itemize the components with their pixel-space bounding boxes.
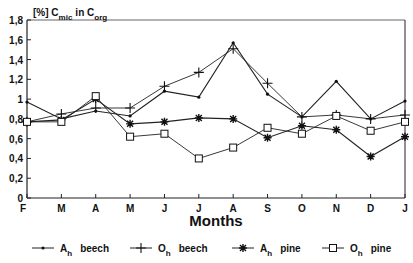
x-tick-label: F bbox=[20, 203, 26, 214]
star-marker-icon bbox=[229, 115, 237, 123]
x-tick-label: A bbox=[92, 203, 99, 214]
x-axis-title: Months bbox=[189, 212, 242, 229]
square-marker-icon bbox=[367, 127, 374, 134]
legend: AhbeechOhbeechAhpineOhpine bbox=[32, 243, 392, 258]
square-marker-icon bbox=[330, 245, 337, 252]
y-tick-label: 0,4 bbox=[9, 153, 23, 164]
y-tick-label: 0,8 bbox=[9, 114, 23, 125]
square-marker-icon bbox=[230, 144, 237, 151]
dot-marker-icon bbox=[335, 80, 338, 83]
x-tick-label: D bbox=[367, 203, 374, 214]
star-marker-icon bbox=[239, 244, 247, 252]
dot-marker-icon bbox=[197, 96, 200, 99]
dot-marker-icon bbox=[41, 246, 44, 249]
legend-item: Ahbeech bbox=[32, 243, 109, 258]
square-marker-icon bbox=[24, 118, 31, 125]
series-ah-beech bbox=[25, 41, 406, 120]
square-marker-icon bbox=[58, 118, 65, 125]
y-tick-label: 1 bbox=[17, 94, 23, 105]
x-tick-label: J bbox=[402, 203, 408, 214]
x-tick-label: M bbox=[126, 203, 134, 214]
star-marker-icon bbox=[160, 118, 168, 126]
plus-marker-icon bbox=[125, 103, 135, 113]
square-marker-icon bbox=[333, 112, 340, 119]
y-tick-label: 0,6 bbox=[9, 134, 23, 145]
legend-label: Ohbeech bbox=[158, 243, 208, 258]
x-tick-label: J bbox=[162, 203, 168, 214]
plus-marker-icon bbox=[159, 81, 169, 91]
series-ah-pine bbox=[23, 95, 409, 160]
square-marker-icon bbox=[92, 93, 99, 100]
star-marker-icon bbox=[264, 134, 272, 142]
y-tick-label: 1,6 bbox=[9, 35, 23, 46]
star-marker-icon bbox=[332, 126, 340, 134]
y-tick-label: 1,4 bbox=[9, 55, 23, 66]
series-oh-pine bbox=[24, 93, 409, 162]
y-tick-label: 1,8 bbox=[9, 15, 23, 26]
legend-item: Ohpine bbox=[322, 243, 392, 258]
series-line bbox=[27, 43, 405, 119]
square-marker-icon bbox=[298, 130, 305, 137]
y-tick-label: 0,2 bbox=[9, 173, 23, 184]
star-marker-icon bbox=[401, 133, 409, 141]
dot-marker-icon bbox=[25, 100, 28, 103]
series-line bbox=[27, 99, 405, 156]
line-chart: 00,20,40,60,811,21,41,61,8FMAMJJASONDJ [… bbox=[0, 0, 413, 263]
x-tick-label: S bbox=[264, 203, 271, 214]
series-line bbox=[27, 96, 405, 158]
x-tick-label: N bbox=[333, 203, 340, 214]
legend-item: Ahpine bbox=[232, 243, 301, 258]
square-marker-icon bbox=[264, 124, 271, 131]
star-marker-icon bbox=[367, 152, 375, 160]
square-marker-icon bbox=[402, 118, 409, 125]
legend-item: Ohbeech bbox=[130, 243, 208, 258]
x-tick-label: O bbox=[298, 203, 306, 214]
star-marker-icon bbox=[126, 120, 134, 128]
plus-marker-icon bbox=[194, 67, 204, 77]
star-marker-icon bbox=[195, 114, 203, 122]
square-marker-icon bbox=[195, 155, 202, 162]
square-marker-icon bbox=[161, 130, 168, 137]
legend-label: Ahbeech bbox=[60, 243, 109, 258]
dot-marker-icon bbox=[128, 114, 131, 117]
x-tick-label: M bbox=[57, 203, 65, 214]
square-marker-icon bbox=[127, 133, 134, 140]
axes: 00,20,40,60,811,21,41,61,8FMAMJJASONDJ bbox=[9, 15, 408, 214]
series-group bbox=[22, 41, 410, 162]
series-line bbox=[27, 49, 405, 122]
plus-marker-icon bbox=[136, 243, 146, 253]
y-tick-label: 1,2 bbox=[9, 74, 23, 85]
dot-marker-icon bbox=[266, 93, 269, 96]
legend-label: Ahpine bbox=[260, 243, 301, 258]
legend-label: Ohpine bbox=[350, 243, 392, 258]
dot-marker-icon bbox=[403, 99, 406, 102]
star-marker-icon bbox=[298, 122, 306, 130]
